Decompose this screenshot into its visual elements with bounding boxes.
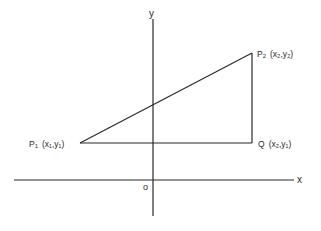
point-sub-p2: 2 — [263, 53, 267, 59]
point-label-p1: P1(x₁,y₁) — [29, 139, 64, 149]
point-coords-q: (x₂,y₁) — [269, 139, 292, 149]
point-coords-p2: (x₂,y₂) — [270, 49, 293, 59]
x-axis-label: x — [297, 174, 302, 185]
coordinate-diagram: y x o P2(x₂,y₂) P1(x₁,y₁) Q(x₂,y₁) — [0, 0, 321, 231]
point-label-q: Q(x₂,y₁) — [258, 139, 291, 149]
segment-p1-p2 — [80, 53, 252, 143]
point-sub-p1: 1 — [35, 143, 39, 149]
origin-label: o — [143, 182, 148, 192]
point-name-q: Q — [258, 139, 265, 149]
y-axis-label: y — [149, 8, 154, 19]
point-label-p2: P2(x₂,y₂) — [257, 49, 293, 59]
point-coords-p1: (x₁,y₁) — [42, 139, 64, 149]
